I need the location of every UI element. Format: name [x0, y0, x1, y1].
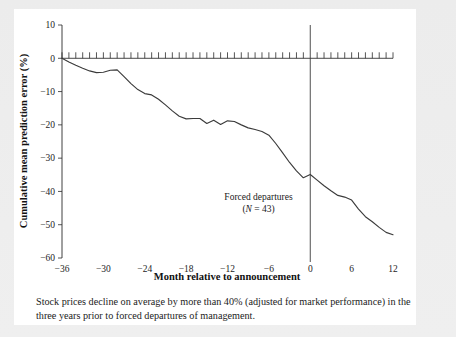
- figure-caption: Stock prices decline on average by more …: [36, 295, 418, 322]
- y-tick-label: −10: [40, 87, 55, 97]
- x-tick-label: 12: [388, 264, 398, 274]
- y-tick-label: 0: [50, 54, 55, 64]
- y-tick-label: −20: [40, 120, 55, 130]
- x-tick-label: −30: [96, 264, 111, 274]
- annotation-value: = 43): [252, 204, 275, 215]
- x-tick-label: 6: [349, 264, 354, 274]
- x-tick-label: −24: [137, 264, 152, 274]
- month-tick-marks: [62, 52, 393, 58]
- x-tick-label: −36: [55, 264, 70, 274]
- chart-plot-area: 100−10−20−30−40−50−60 −36−30−24−18−12−60…: [14, 9, 416, 281]
- figure-caption-text: Stock prices decline on average by more …: [36, 295, 418, 322]
- annotation-label-line2: (N = 43): [242, 204, 274, 215]
- line-chart: 100−10−20−30−40−50−60 −36−30−24−18−12−60…: [14, 9, 416, 281]
- y-tick-label: −50: [40, 220, 55, 230]
- y-tick-label: 10: [46, 20, 56, 30]
- y-axis-ticks: [58, 25, 62, 258]
- figure-panel: 100−10−20−30−40−50−60 −36−30−24−18−12−60…: [14, 9, 416, 325]
- x-tick-label: 0: [308, 264, 313, 274]
- figure-root: 100−10−20−30−40−50−60 −36−30−24−18−12−60…: [0, 0, 456, 337]
- y-tick-label: −40: [40, 187, 55, 197]
- y-axis-title: Cumulative mean prediction error (%): [18, 53, 30, 228]
- series-line-forced-departures: [62, 58, 393, 234]
- x-axis-title: Month relative to announcement: [154, 271, 301, 281]
- y-tick-label: −30: [40, 153, 55, 163]
- y-axis-tick-labels: 100−10−20−30−40−50−60: [40, 20, 55, 263]
- annotation-label-line1: Forced departures: [224, 192, 293, 202]
- y-tick-label: −60: [40, 253, 55, 263]
